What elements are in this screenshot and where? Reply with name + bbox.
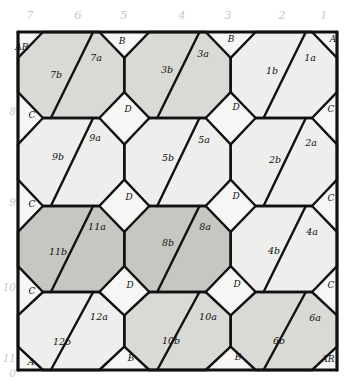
edge-marker-d-10: D xyxy=(231,191,239,201)
edge-marker-c-7: C xyxy=(328,104,335,114)
edge-marker-c-4: C xyxy=(29,110,36,120)
cell-label-3b: 3b xyxy=(161,64,173,75)
cell-label-5a: 5a xyxy=(198,134,210,145)
cell-label-7b: 7b xyxy=(50,69,62,80)
edge-marker-c-12: C xyxy=(29,286,36,296)
column-label-4: 4 xyxy=(174,8,190,22)
cell-label-4b: 4b xyxy=(267,245,280,256)
column-label-2: 2 xyxy=(274,8,290,22)
row-label-11: 11 xyxy=(0,352,16,364)
tessellation-diagram: 7b7a3b3a1b1a9b9a5b5a2b2a11b11a8b8a4b4a12… xyxy=(0,0,348,387)
edge-marker-c-11: C xyxy=(328,193,335,203)
edge-marker-b-2: B xyxy=(227,34,235,44)
cell-label-11b: 11b xyxy=(49,246,67,257)
edge-marker-a-16: A xyxy=(27,357,35,367)
cell-label-9a: 9a xyxy=(89,132,101,143)
edge-marker-c-15: C xyxy=(328,280,335,290)
row-label-0: 0 xyxy=(0,367,16,379)
cell-label-8a: 8a xyxy=(199,221,211,232)
edge-marker-d-13: D xyxy=(125,280,133,290)
edge-marker-d-6: D xyxy=(231,102,239,112)
column-label-1: 1 xyxy=(316,8,332,22)
row-label-9: 9 xyxy=(0,196,16,208)
cell-label-7a: 7a xyxy=(90,52,102,63)
cell-label-9b: 9b xyxy=(52,151,64,162)
cell-label-12b: 12b xyxy=(53,336,71,347)
edge-marker-b-18: B xyxy=(234,352,242,362)
row-label-10: 10 xyxy=(0,281,16,293)
edge-marker-ar-19: AR xyxy=(320,354,334,364)
edge-marker-b-1: B xyxy=(118,36,126,46)
edge-marker-ar-0: AR xyxy=(14,42,28,52)
cell-label-10b: 10b xyxy=(162,335,180,346)
cell-label-8b: 8b xyxy=(162,237,174,248)
column-label-3: 3 xyxy=(220,8,236,22)
cell-label-12a: 12a xyxy=(90,311,108,322)
edge-marker-c-8: C xyxy=(29,199,36,209)
cell-label-2b: 2b xyxy=(268,154,281,165)
edge-marker-d-9: D xyxy=(124,192,132,202)
cell-label-6b: 6b xyxy=(273,335,285,346)
cell-label-5b: 5b xyxy=(162,152,174,163)
column-label-5: 5 xyxy=(116,8,132,22)
column-label-6: 6 xyxy=(70,8,86,22)
edge-marker-b-17: B xyxy=(127,353,135,363)
column-label-7: 7 xyxy=(22,8,38,22)
cell-label-1b: 1b xyxy=(266,65,278,76)
tile-group xyxy=(18,32,337,370)
tiling-canvas: 7b7a3b3a1b1a9b9a5b5a2b2a11b11a8b8a4b4a12… xyxy=(0,0,348,387)
cell-label-10a: 10a xyxy=(199,311,217,322)
edge-marker-a-3: A xyxy=(329,34,337,44)
cell-label-6a: 6a xyxy=(309,312,321,323)
cell-label-11a: 11a xyxy=(88,221,106,232)
row-label-8: 8 xyxy=(0,105,16,117)
cell-label-4a: 4a xyxy=(305,226,318,237)
cell-label-3a: 3a xyxy=(197,48,209,59)
cell-label-1a: 1a xyxy=(304,52,316,63)
edge-marker-d-5: D xyxy=(123,104,131,114)
edge-marker-d-14: D xyxy=(232,279,240,289)
cell-label-2a: 2a xyxy=(304,137,317,148)
